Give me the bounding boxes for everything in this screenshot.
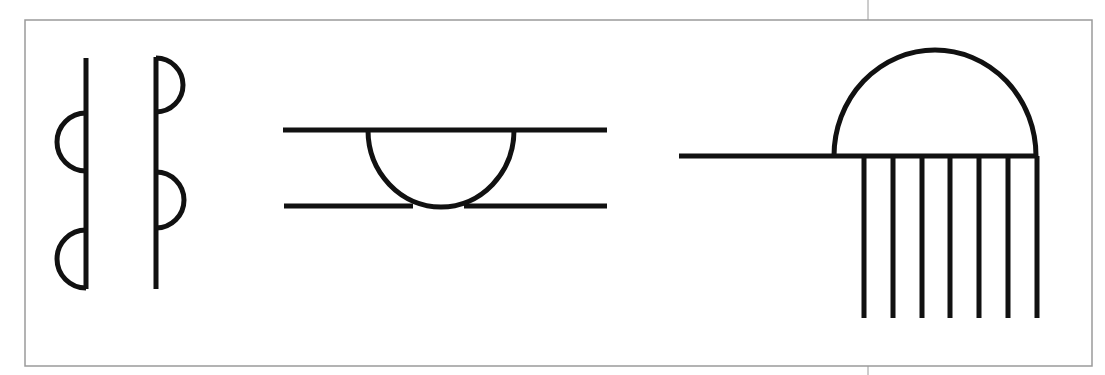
background	[0, 0, 1105, 375]
diagram-svg	[0, 0, 1105, 375]
diagram-canvas	[0, 0, 1105, 375]
